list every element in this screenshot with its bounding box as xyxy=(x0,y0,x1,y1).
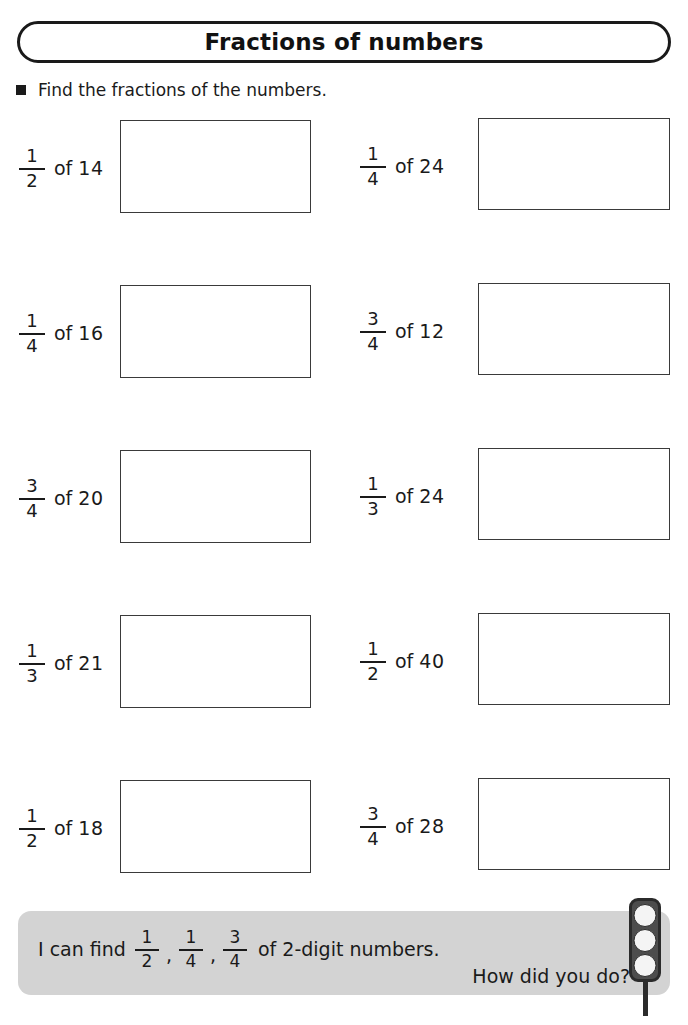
operand-number: 14 xyxy=(78,157,103,179)
fraction: 1 4 xyxy=(14,311,50,357)
of-label: of xyxy=(54,322,72,344)
of-label: of xyxy=(395,485,413,507)
fraction-numerator: 1 xyxy=(367,144,378,165)
fraction-numerator: 3 xyxy=(26,476,37,497)
fraction-numerator: 1 xyxy=(367,474,378,495)
traffic-light-lamp-top[interactable] xyxy=(634,904,657,927)
fraction-numerator: 1 xyxy=(367,639,378,660)
answer-box-2b[interactable] xyxy=(478,283,670,375)
answer-box-3a[interactable] xyxy=(120,450,311,543)
separator-comma: , xyxy=(210,944,216,966)
operand-number: 20 xyxy=(78,487,103,509)
operand-number: 24 xyxy=(419,155,444,177)
fraction: 1 3 xyxy=(355,474,391,520)
fraction-denominator: 3 xyxy=(367,499,378,520)
fraction: 3 4 xyxy=(14,476,50,522)
problem-label-1b: 1 4 of 24 xyxy=(355,116,445,216)
operand-number: 18 xyxy=(78,817,103,839)
fraction: 1 4 xyxy=(355,144,391,190)
answer-box-4b[interactable] xyxy=(478,613,670,705)
fraction-expression: 1 3 of 24 xyxy=(355,473,445,519)
fraction-expression: 1 2 of 18 xyxy=(14,805,104,851)
problem-label-5a: 1 2 of 18 xyxy=(14,778,104,878)
worksheet-title-bar: Fractions of numbers xyxy=(17,21,671,63)
fraction-numerator: 1 xyxy=(26,146,37,167)
of-label: of xyxy=(395,155,413,177)
how-did-you-do-text: How did you do? xyxy=(472,965,630,987)
of-label: of xyxy=(54,157,72,179)
fraction-denominator: 3 xyxy=(26,666,37,687)
answer-box-1a[interactable] xyxy=(120,120,311,213)
fraction-expression: 3 4 of 20 xyxy=(14,475,104,521)
fraction-numerator: 1 xyxy=(26,641,37,662)
problem-label-3b: 1 3 of 24 xyxy=(355,446,445,546)
problem-grid: 1 2 of 14 1 4 of 24 xyxy=(0,118,688,943)
fraction-denominator: 4 xyxy=(26,336,37,357)
problem-label-5b: 3 4 of 28 xyxy=(355,776,445,876)
of-label: of xyxy=(54,817,72,839)
fraction: 3 4 xyxy=(355,309,391,355)
operand-number: 28 xyxy=(419,815,444,837)
operand-number: 40 xyxy=(419,650,444,672)
fraction-denominator: 4 xyxy=(186,952,197,972)
statement-lead-text: I can find xyxy=(38,938,126,960)
fraction-denominator: 4 xyxy=(230,952,241,972)
fraction-denominator: 4 xyxy=(367,334,378,355)
of-label: of xyxy=(395,650,413,672)
fraction-numerator: 3 xyxy=(230,928,241,948)
traffic-light-post xyxy=(643,982,648,1016)
answer-box-2a[interactable] xyxy=(120,285,311,378)
operand-number: 16 xyxy=(78,322,103,344)
instruction-text: Find the fractions of the numbers. xyxy=(38,80,327,100)
instruction-line: Find the fractions of the numbers. xyxy=(16,80,327,100)
fraction-numerator: 3 xyxy=(367,309,378,330)
operand-number: 12 xyxy=(419,320,444,342)
traffic-light-lamp-bottom[interactable] xyxy=(634,954,657,977)
fraction-expression: 3 4 of 28 xyxy=(355,803,445,849)
traffic-light-icon[interactable] xyxy=(623,898,669,1018)
of-label: of xyxy=(54,652,72,674)
fraction-numerator: 1 xyxy=(186,928,197,948)
square-bullet-icon xyxy=(16,85,26,95)
of-label: of xyxy=(395,320,413,342)
problem-label-4a: 1 3 of 21 xyxy=(14,613,104,713)
fraction-numerator: 1 xyxy=(26,806,37,827)
answer-box-3b[interactable] xyxy=(478,448,670,540)
statement-tail-text: of 2-digit numbers. xyxy=(258,938,440,960)
fraction: 1 2 xyxy=(355,639,391,685)
fraction-expression: 1 2 of 14 xyxy=(14,145,104,191)
answer-box-4a[interactable] xyxy=(120,615,311,708)
answer-box-1b[interactable] xyxy=(478,118,670,210)
problem-row: 3 4 of 20 1 3 of 24 xyxy=(0,448,688,613)
fraction-denominator: 4 xyxy=(26,501,37,522)
problem-label-1a: 1 2 of 14 xyxy=(14,118,104,218)
fraction: 1 2 xyxy=(14,806,50,852)
self-assessment-panel: I can find 1 2 , 1 4 , 3 4 of 2-digit nu… xyxy=(18,911,670,995)
fraction-expression: 1 4 of 16 xyxy=(14,310,104,356)
traffic-light-lamp-middle[interactable] xyxy=(634,929,657,952)
fraction-expression: 1 2 of 40 xyxy=(355,638,445,684)
fraction-denominator: 4 xyxy=(367,829,378,850)
operand-number: 21 xyxy=(78,652,103,674)
problem-label-2b: 3 4 of 12 xyxy=(355,281,445,381)
fraction-denominator: 2 xyxy=(367,664,378,685)
of-label: of xyxy=(54,487,72,509)
answer-box-5a[interactable] xyxy=(120,780,311,873)
fraction: 1 2 xyxy=(130,928,164,972)
fraction: 3 4 xyxy=(218,928,252,972)
traffic-light-body xyxy=(629,898,661,982)
problem-row: 1 3 of 21 1 2 of 40 xyxy=(0,613,688,778)
problem-label-2a: 1 4 of 16 xyxy=(14,283,104,383)
answer-box-5b[interactable] xyxy=(478,778,670,870)
operand-number: 24 xyxy=(419,485,444,507)
problem-row: 1 4 of 16 3 4 of 12 xyxy=(0,283,688,448)
fraction-expression: 3 4 of 12 xyxy=(355,308,445,354)
fraction-denominator: 2 xyxy=(141,952,152,972)
fraction: 3 4 xyxy=(355,804,391,850)
fraction: 1 3 xyxy=(14,641,50,687)
fraction: 1 4 xyxy=(174,928,208,972)
fraction: 1 2 xyxy=(14,146,50,192)
page-title: Fractions of numbers xyxy=(204,29,483,55)
problem-label-3a: 3 4 of 20 xyxy=(14,448,104,548)
fraction-denominator: 2 xyxy=(26,831,37,852)
